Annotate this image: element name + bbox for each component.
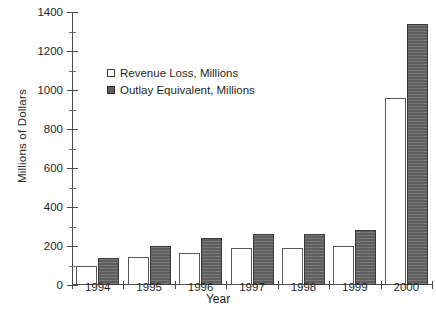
bar — [253, 234, 274, 285]
y-tick-minor — [69, 32, 76, 33]
bar — [355, 230, 376, 285]
legend-label-outlay-equivalent: Outlay Equivalent, Millions — [120, 84, 255, 96]
x-tick — [381, 281, 382, 289]
y-tick-minor — [69, 149, 76, 150]
y-tick-major — [67, 207, 78, 208]
x-tick — [432, 281, 433, 289]
y-tick-major — [67, 246, 78, 247]
bar — [333, 246, 354, 285]
chart-legend: Revenue Loss, Millions Outlay Equivalent… — [107, 65, 255, 99]
bar-chart: Millions of Dollars 02004006008001000120… — [0, 0, 436, 319]
y-tick-label: 400 — [44, 201, 63, 213]
y-tick-label: 1400 — [37, 6, 63, 18]
legend-swatch-filled-square-icon — [107, 86, 115, 94]
bar — [385, 98, 406, 285]
y-tick-label: 0 — [57, 279, 63, 291]
legend-item-revenue-loss: Revenue Loss, Millions — [107, 65, 255, 80]
y-tick-major — [67, 51, 78, 52]
legend-item-outlay-equivalent: Outlay Equivalent, Millions — [107, 82, 255, 97]
y-tick-minor — [69, 266, 76, 267]
y-tick-minor — [69, 71, 76, 72]
y-tick-label: 1000 — [37, 84, 63, 96]
bar — [407, 24, 428, 285]
y-tick-label: 800 — [44, 123, 63, 135]
y-tick-label: 1200 — [37, 45, 63, 57]
x-tick — [175, 281, 176, 289]
y-tick-minor — [69, 188, 76, 189]
y-tick-minor — [69, 227, 76, 228]
bar — [304, 234, 325, 285]
x-axis-title: Year — [0, 292, 436, 306]
y-tick-minor — [69, 110, 76, 111]
plot-area: 0200400600800100012001400 — [72, 12, 432, 285]
x-tick — [329, 281, 330, 289]
y-tick-major — [67, 12, 78, 13]
y-tick-label: 200 — [44, 240, 63, 252]
x-tick — [123, 281, 124, 289]
legend-swatch-open-square-icon — [107, 69, 115, 77]
x-tick — [278, 281, 279, 289]
bar — [282, 248, 303, 285]
bar — [231, 248, 252, 285]
y-axis-title: Millions of Dollars — [16, 56, 28, 216]
y-tick-label: 600 — [44, 162, 63, 174]
y-tick-major — [67, 129, 78, 130]
x-tick — [226, 281, 227, 289]
y-tick-major — [67, 90, 78, 91]
bar — [201, 238, 222, 285]
bar — [150, 246, 171, 285]
x-tick — [72, 281, 73, 289]
y-tick-major — [67, 168, 78, 169]
legend-label-revenue-loss: Revenue Loss, Millions — [120, 67, 238, 79]
